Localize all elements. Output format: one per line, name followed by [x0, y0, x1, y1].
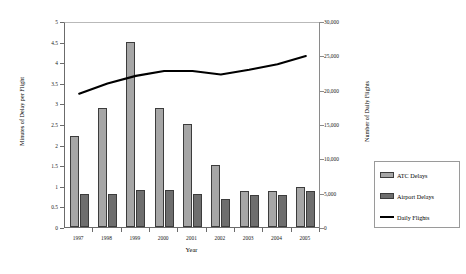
legend-item-label: ATC Delays — [397, 172, 427, 179]
legend-swatch-icon — [380, 172, 394, 178]
secondary-y-axis-tick-mark — [320, 22, 324, 23]
legend-item-atc-delays: ATC Delays — [380, 170, 427, 180]
secondary-y-axis-tick-label: 30,000 — [324, 19, 339, 25]
daily-flights-line — [65, 23, 320, 229]
legend-item-label: Airport Delays — [397, 193, 434, 200]
secondary-y-axis-tick-mark — [320, 125, 324, 126]
y-axis-title: Minutes of Delay per Flight — [18, 52, 25, 172]
secondary-y-axis-title: Number of Daily Flights — [363, 52, 370, 172]
legend-item-daily-flights: Daily Flights — [380, 212, 430, 222]
legend-item-label: Daily Flights — [397, 214, 430, 221]
plot-area — [64, 22, 319, 228]
y-axis-tick-label: 5 — [55, 19, 58, 25]
y-axis-tick-label: 3 — [55, 101, 58, 107]
y-axis-tick-mark — [60, 228, 64, 229]
y-axis-tick-label: 3.5 — [51, 81, 58, 87]
secondary-y-axis-tick-mark — [320, 56, 324, 57]
y-axis-tick-label: 1.5 — [51, 163, 58, 169]
legend-swatch-icon — [380, 193, 394, 199]
secondary-y-axis-tick-label: 5,000 — [324, 191, 336, 197]
x-axis-title: Year — [64, 246, 319, 253]
legend-item-airport-delays: Airport Delays — [380, 191, 434, 201]
secondary-y-axis-tick-label: 0 — [324, 225, 327, 231]
y-axis-tick-label: 0.5 — [51, 204, 58, 210]
y-axis-tick-label: 2.5 — [51, 122, 58, 128]
y-axis-tick-label: 1 — [55, 184, 58, 190]
legend-line-icon — [380, 216, 394, 218]
y-axis-tick-label: 0 — [55, 225, 58, 231]
y-axis-tick-label: 2 — [55, 143, 58, 149]
chart-legend: ATC Delays Airport Delays Daily Flights — [374, 161, 460, 228]
secondary-y-axis-tick-mark — [320, 91, 324, 92]
y-axis-tick-label: 4.5 — [51, 40, 58, 46]
secondary-y-axis-tick-label: 10,000 — [324, 156, 339, 162]
x-axis-tick-label: 2005 — [285, 235, 325, 241]
y-axis-tick-label: 4 — [55, 60, 58, 66]
secondary-y-axis-tick-mark — [320, 194, 324, 195]
secondary-y-axis-tick-label: 25,000 — [324, 53, 339, 59]
secondary-y-axis-tick-mark — [320, 159, 324, 160]
secondary-y-axis-tick-label: 20,000 — [324, 88, 339, 94]
secondary-y-axis-tick-mark — [320, 228, 324, 229]
chart-container: Minutes of Delay per Flight Number of Da… — [0, 0, 466, 274]
secondary-y-axis-tick-label: 15,000 — [324, 122, 339, 128]
